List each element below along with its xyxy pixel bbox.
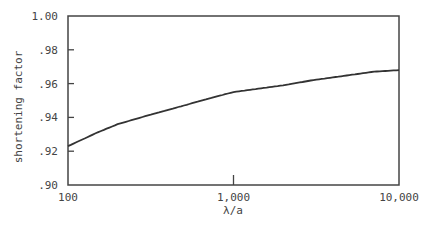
x-axis-label: λ/a bbox=[223, 204, 243, 217]
chart: .90.92.94.96.981.00 1001,00010,000 λ/a s… bbox=[0, 0, 428, 229]
x-tick-label: 100 bbox=[58, 191, 78, 204]
y-tick-label: .92 bbox=[38, 145, 58, 158]
y-tick-label: .96 bbox=[38, 78, 58, 91]
y-tick-label: .98 bbox=[38, 44, 58, 57]
y-axis-label: shortening factor bbox=[12, 50, 25, 163]
x-tick-label: 10,000 bbox=[379, 191, 419, 204]
plot-frame bbox=[68, 16, 399, 185]
y-tick-label: .90 bbox=[38, 179, 58, 192]
plot-border bbox=[68, 16, 399, 185]
y-tick-label: .94 bbox=[38, 111, 58, 124]
y-tick-label: 1.00 bbox=[32, 10, 59, 23]
x-tick-label: 1,000 bbox=[217, 191, 250, 204]
data-curve bbox=[68, 70, 399, 146]
x-axis-ticks: 1001,00010,000 bbox=[58, 175, 419, 204]
